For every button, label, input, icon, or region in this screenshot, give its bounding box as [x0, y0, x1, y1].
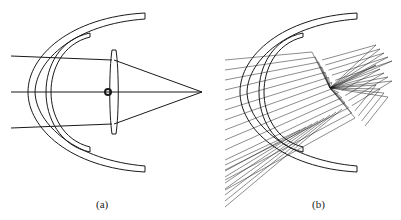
ray [225, 121, 318, 183]
ray [225, 118, 324, 189]
ray [330, 57, 388, 88]
ray-converge-top [114, 60, 202, 92]
ray [225, 57, 315, 70]
ray [365, 97, 388, 126]
ray [330, 49, 380, 88]
outer-shell-b [240, 13, 357, 172]
panel-b-label: (b) [312, 198, 325, 210]
ray [335, 61, 392, 80]
ray [339, 65, 376, 85]
ray-converge-bottom [114, 92, 202, 124]
ray [225, 115, 330, 195]
panel-b [225, 13, 392, 207]
ray [225, 52, 312, 60]
ray [362, 93, 384, 121]
panel-a-label: (a) [96, 198, 108, 210]
ray-fan [225, 45, 392, 207]
optics-diagram [0, 0, 401, 220]
ray [330, 61, 392, 88]
ray [225, 103, 345, 160]
panel-a [11, 13, 202, 172]
